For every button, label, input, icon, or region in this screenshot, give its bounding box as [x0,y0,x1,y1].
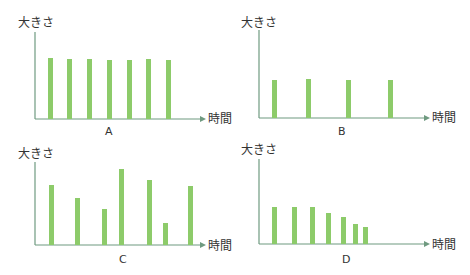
bar [87,59,92,119]
bar [388,80,393,118]
chart-caption: B [338,125,346,137]
x-axis-label: 時間 [208,239,232,253]
x-axis-arrow-icon [424,115,430,121]
bar [346,80,351,118]
chart-a-svg: 大きさ 時間 A [0,0,235,137]
bars [49,169,193,245]
x-axis-arrow-icon [424,241,430,247]
chart-panel-c: 大きさ 時間 C [0,137,235,275]
bar [147,180,152,245]
chart-d-svg: 大きさ 時間 D [235,137,470,275]
bars [48,58,171,119]
y-axis-label: 大きさ [18,147,54,161]
bar [75,198,80,245]
bar [127,60,132,119]
chart-b-svg: 大きさ 時間 B [235,0,470,137]
chart-panel-b: 大きさ 時間 B [235,0,470,137]
bar [353,224,358,244]
bar [363,227,368,244]
y-axis-label: 大きさ [241,143,277,157]
bars [272,207,368,244]
bar [49,185,54,245]
bar [119,169,124,245]
bar [48,58,53,119]
bar [341,217,346,244]
chart-caption: A [105,125,113,137]
y-axis-label: 大きさ [241,16,277,30]
chart-c-svg: 大きさ 時間 C [0,137,235,275]
bar [163,223,168,245]
bar [292,207,297,244]
chart-caption: C [119,253,127,266]
chart-caption: D [342,253,350,266]
bar [272,80,277,118]
bar [102,209,107,245]
bar [306,79,311,118]
chart-panel-a: 大きさ 時間 A [0,0,235,137]
bar [326,213,331,244]
bar [107,60,112,119]
bar [146,59,151,119]
x-axis-label: 時間 [432,238,456,252]
bar [67,59,72,119]
x-axis-label: 時間 [432,111,456,125]
x-axis-arrow-icon [200,116,206,122]
chart-panel-d: 大きさ 時間 D [235,137,470,275]
bar [310,207,315,244]
bar [272,207,277,244]
bar [188,186,193,245]
y-axis-label: 大きさ [18,16,54,30]
bar [166,60,171,119]
x-axis-arrow-icon [200,242,206,248]
bars [272,79,393,118]
x-axis-label: 時間 [208,112,232,126]
